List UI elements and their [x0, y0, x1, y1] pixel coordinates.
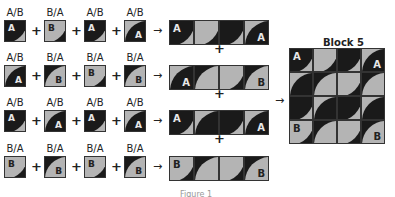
plus-sign: + — [111, 159, 122, 174]
tile-letter: A — [373, 59, 381, 70]
quilt-tile: B — [124, 156, 146, 178]
tile-letter: B — [257, 168, 265, 179]
quilt-tile: B — [84, 65, 106, 87]
quarter-arc-shape — [362, 97, 385, 120]
quarter-arc-shape — [314, 121, 337, 144]
tile-label: B/A — [122, 52, 148, 63]
plus-sign: + — [31, 68, 42, 83]
arrow-icon: → — [153, 69, 162, 82]
plus-sign: + — [214, 41, 225, 56]
tile-label: A/B — [122, 97, 148, 108]
plus-sign: + — [111, 68, 122, 83]
quarter-arc-shape — [337, 96, 361, 120]
block-title: Block 5 — [323, 37, 364, 48]
tile-letter: B — [48, 23, 55, 33]
arrow-icon: → — [275, 94, 284, 107]
plus-sign: + — [111, 113, 122, 128]
strip-tile — [194, 156, 219, 181]
quarter-arc-shape — [337, 72, 361, 96]
tile-letter: B — [293, 123, 301, 134]
tile-label: B/A — [42, 52, 68, 63]
tile-label: A/B — [82, 97, 108, 108]
tile-label: B/A — [82, 52, 108, 63]
tile-letter: A — [173, 113, 181, 124]
tile-label: B/A — [42, 7, 68, 18]
strip-tile: A — [244, 110, 269, 135]
quarter-arc-shape — [337, 48, 361, 72]
tile-letter: A — [293, 51, 301, 62]
quilt-tile: A — [4, 20, 26, 42]
quarter-arc-shape — [362, 73, 385, 96]
block-tile — [313, 120, 337, 144]
block-tile — [361, 72, 385, 96]
block-tile — [337, 72, 361, 96]
tile-label: B/A — [122, 143, 148, 154]
quilt-tile: A — [124, 110, 146, 132]
quilt-tile: B — [44, 156, 66, 178]
plus-sign: + — [31, 23, 42, 38]
quilt-tile: A — [84, 110, 106, 132]
plus-sign: + — [71, 23, 82, 38]
quilt-tile: A — [44, 110, 66, 132]
arrow-icon: → — [153, 114, 162, 127]
tile-letter: A — [88, 113, 95, 123]
quilt-tile: B — [44, 20, 66, 42]
strip-tile: A — [169, 65, 194, 90]
plus-sign: + — [214, 131, 225, 146]
block-tile: A — [289, 48, 313, 72]
figure-caption: Figure 1 — [180, 190, 212, 197]
tile-letter: B — [135, 75, 142, 85]
tile-label: B/A — [2, 143, 28, 154]
arrow-icon: → — [153, 24, 162, 37]
block-tile — [289, 96, 313, 120]
strip-tile: A — [169, 20, 194, 45]
quilt-tile: B — [4, 156, 26, 178]
plus-sign: + — [71, 159, 82, 174]
quilt-tile: B — [124, 65, 146, 87]
plus-sign: + — [111, 23, 122, 38]
quarter-arc-shape — [337, 120, 361, 144]
quilt-tile: B — [44, 65, 66, 87]
block-tile — [337, 96, 361, 120]
tile-letter: A — [8, 23, 15, 33]
plus-sign: + — [214, 86, 225, 101]
plus-sign: + — [71, 68, 82, 83]
tile-letter: B — [55, 75, 62, 85]
block-tile — [361, 96, 385, 120]
quarter-arc-shape — [314, 97, 337, 120]
quarter-arc-shape — [314, 73, 337, 96]
tile-label: A/B — [2, 7, 28, 18]
tile-letter: B — [257, 77, 265, 88]
block-tile — [313, 96, 337, 120]
tile-letter: A — [55, 120, 62, 130]
quilt-tile: A — [4, 65, 26, 87]
tile-label: A/B — [82, 7, 108, 18]
tile-label: A/B — [2, 97, 28, 108]
plus-sign: + — [31, 159, 42, 174]
quarter-arc-shape — [289, 96, 313, 120]
quilt-tile: A — [4, 110, 26, 132]
tile-label: A/B — [122, 7, 148, 18]
tile-letter: A — [173, 23, 181, 34]
block-tile: B — [289, 120, 313, 144]
quilt-tile: A — [124, 20, 146, 42]
block-tile: B — [361, 120, 385, 144]
tile-letter: A — [135, 120, 142, 130]
tile-letter: B — [173, 159, 181, 170]
block-tile — [313, 48, 337, 72]
quilt-tile: B — [84, 156, 106, 178]
plus-sign: + — [31, 113, 42, 128]
tile-letter: B — [373, 131, 381, 142]
block-tile — [313, 72, 337, 96]
tile-letter: A — [15, 75, 22, 85]
tile-letter: B — [55, 166, 62, 176]
tile-letter: B — [8, 159, 15, 169]
tile-letter: A — [257, 122, 265, 133]
tile-letter: A — [257, 32, 265, 43]
arrow-icon: → — [153, 160, 162, 173]
block-tile — [337, 48, 361, 72]
block-tile — [337, 120, 361, 144]
tile-letter: A — [88, 23, 95, 33]
quilt-tile: A — [84, 20, 106, 42]
block-tile — [289, 72, 313, 96]
